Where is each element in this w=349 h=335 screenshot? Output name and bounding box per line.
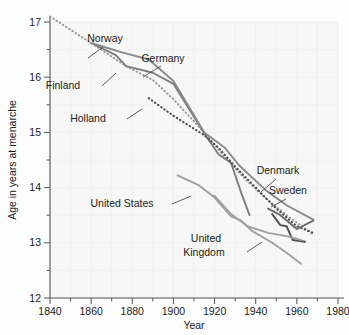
- series-label-holland: Holland: [70, 112, 106, 124]
- series-label-kingdom: Kingdom: [183, 246, 225, 258]
- y-axis-tick-label: 15: [29, 126, 41, 138]
- x-axis-tick-label: 1880: [121, 305, 145, 317]
- y-axis-tick-label: 13: [29, 236, 41, 248]
- x-axis-tick-label: 1920: [203, 305, 227, 317]
- chart-container: 1213141516171840186018801900192019401960…: [0, 0, 349, 335]
- x-axis-tick-label: 1840: [38, 305, 62, 317]
- series-label-germany: Germany: [141, 52, 185, 64]
- x-axis-tick-label: 1940: [244, 305, 268, 317]
- x-axis-tick-label: 1860: [79, 305, 103, 317]
- y-axis-title: Age in years at menarche: [6, 100, 18, 220]
- x-axis-title: Year: [183, 319, 205, 331]
- y-axis-tick-label: 12: [29, 292, 41, 304]
- menarche-age-line-chart: 1213141516171840186018801900192019401960…: [0, 0, 349, 335]
- x-axis-tick-label: 1900: [162, 305, 186, 317]
- y-axis-tick-label: 16: [29, 71, 41, 83]
- series-label-denmark: Denmark: [257, 164, 300, 176]
- y-axis-tick-label: 17: [29, 16, 41, 28]
- series-label-united: United: [191, 232, 222, 244]
- series-label-finland: Finland: [46, 79, 81, 91]
- y-axis-tick-label: 14: [29, 181, 41, 193]
- series-label-sweden: Sweden: [269, 184, 307, 196]
- series-label-united-states: United States: [90, 197, 153, 209]
- series-label-norway: Norway: [87, 32, 123, 44]
- x-axis-tick-label: 1960: [285, 305, 309, 317]
- x-axis-tick-label: 1980: [326, 305, 349, 317]
